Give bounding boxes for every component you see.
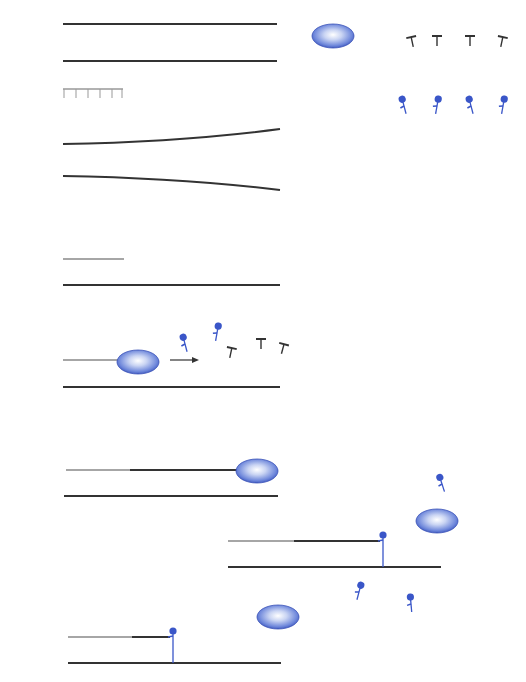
dntp-icon [406,36,418,48]
taq-polymerase-icon [117,350,159,374]
panel-c-annealing [63,259,280,285]
dntp-icon [432,36,442,46]
ddntp-terminator-icon [378,531,387,567]
ddntp-icon [498,95,509,115]
separated-top-strand [63,129,280,144]
taq-polymerase-icon [416,509,458,533]
terminated-fragment-long [228,531,441,567]
ddntp-icon [432,95,443,115]
ddntp-icon [464,95,476,115]
panel-d-extension [63,322,289,387]
dna-primer-icon [63,89,123,98]
dntp-icon [496,36,508,48]
taq-polymerase-icon [257,605,299,629]
deoxynucleotide-icons [406,36,507,48]
taq-polymerase-icon [236,459,278,483]
dntp-icon [256,339,266,349]
ddntp-icon [353,581,365,601]
ddntp-icon [178,333,190,353]
direction-arrow-icon [170,357,199,363]
ddntp-icon [435,473,448,493]
ddntp-icon [212,322,223,342]
panel-b-denaturation [63,129,280,190]
dntp-icon [225,347,237,359]
panel-e-termination [64,459,458,663]
panel-a [63,24,277,98]
separated-bottom-strand [63,176,280,190]
dntp-icon [465,36,475,46]
extension-complex-1 [64,459,278,496]
ddntp-icon [397,95,409,115]
sanger-sequencing-diagram [0,0,526,682]
dntp-icon [277,343,289,355]
ddntp-terminator-icon [168,627,177,663]
taq-polymerase-icon [312,24,354,48]
terminated-fragment-short [68,627,281,663]
dideoxynucleotide-icons [397,95,508,115]
ddntp-icon [406,593,415,612]
